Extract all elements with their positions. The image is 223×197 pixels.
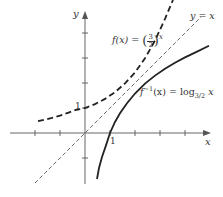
function-inverse-diagram: y x 1 1 y = x f(x) = (32)x f−1(x) = log3… (0, 0, 223, 197)
y-axis-arrow-icon (82, 11, 88, 19)
x-tick-label-1: 1 (110, 137, 116, 146)
logarithm-label-var: x (205, 86, 213, 97)
exponential-label-lhs: f(x) = (112, 34, 142, 45)
logarithm-label-mid: (x) = log (153, 86, 195, 97)
y-tick-label-1: 1 (75, 102, 81, 111)
logarithm-curve (97, 46, 209, 179)
logarithm-label-sub: 3/2 (195, 92, 205, 100)
y-axis (82, 11, 88, 184)
logarithm-label-sup: −1 (144, 85, 154, 93)
exponential-label: f(x) = (32)x (112, 34, 163, 49)
y-axis-label: y (73, 9, 79, 19)
identity-label: y = x (190, 11, 215, 21)
identity-label-text: y = x (190, 10, 215, 21)
exponential-label-exponent: x (159, 33, 163, 41)
logarithm-label: f−1(x) = log3/2 x (140, 86, 214, 100)
x-axis-label: x (205, 137, 211, 147)
exponential-curve (38, 0, 173, 121)
